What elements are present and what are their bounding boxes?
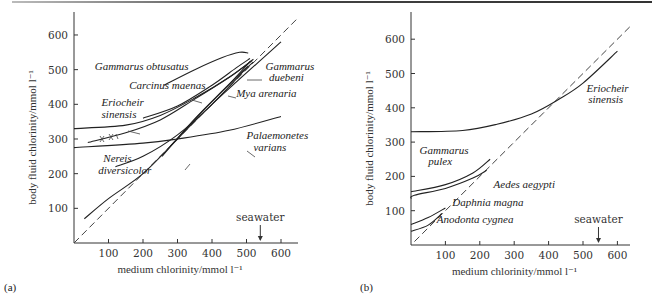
x-tick-label: 600	[271, 247, 291, 259]
species-label: pulex	[427, 155, 452, 167]
y-tick-label: 300	[385, 136, 405, 148]
x-tick-label: 100	[435, 249, 455, 261]
leader-line	[128, 131, 140, 134]
species-label: Eriocheir	[101, 96, 145, 108]
leader-line	[228, 96, 236, 98]
leader-line	[192, 100, 202, 103]
figure: 100200300400500600100200300400500600medi…	[0, 0, 652, 299]
x-tick-label: 200	[133, 247, 153, 259]
series-isosmotic-line	[414, 25, 631, 241]
y-tick-label: 400	[48, 98, 68, 110]
y-tick-label: 500	[385, 68, 405, 80]
species-label: sinensis	[588, 93, 623, 105]
y-tick-label: 500	[48, 64, 68, 76]
seawater-annotation: seawater	[574, 213, 624, 225]
leader-line	[185, 164, 190, 170]
x-tick-label: 300	[167, 247, 187, 259]
y-tick-label: 300	[48, 133, 68, 145]
panel-label: (a)	[4, 281, 17, 294]
species-label: Palaemonetes	[246, 129, 309, 141]
y-axis-label: body fluid chlorinity/mmol l⁻¹	[26, 70, 38, 205]
x-tick-label: 500	[236, 247, 256, 259]
species-label: varians	[253, 141, 286, 153]
species-label: Mya arenaria	[235, 87, 297, 99]
arrowhead-icon	[258, 236, 263, 241]
panel-a-chart: 100200300400500600100200300400500600medi…	[4, 12, 314, 294]
species-label: Aedes aegypti	[493, 178, 555, 190]
species-label: diversicolor	[98, 164, 152, 176]
x-axis-label: medium chlorinity/mmol l⁻¹	[452, 265, 577, 277]
arrowhead-icon	[596, 238, 601, 243]
y-tick-label: 200	[385, 170, 405, 182]
panel-label: (b)	[360, 281, 373, 294]
x-tick-label: 500	[573, 249, 593, 261]
y-tick-label: 400	[385, 102, 405, 114]
species-label: sinensis	[102, 108, 137, 120]
panel-b-chart: 100200300400500600100200300400500600medi…	[360, 12, 631, 294]
species-label: Nereis	[102, 152, 131, 164]
species-label: Daphnia magna	[451, 196, 524, 208]
x-tick-label: 200	[470, 249, 490, 261]
species-label: Gammarus obtusatus	[95, 60, 189, 72]
series-aedes-aegypti	[411, 170, 487, 198]
x-tick-label: 600	[607, 249, 627, 261]
species-label: duebeni	[269, 71, 304, 83]
x-axis-label: medium chlorinity/mmol l⁻¹	[117, 263, 242, 275]
species-label: Gammarus	[420, 144, 469, 156]
x-tick-label: 300	[504, 249, 524, 261]
seawater-annotation: seawater	[236, 211, 286, 223]
x-tick-label: 400	[202, 247, 222, 259]
x-tick-label: 100	[98, 247, 118, 259]
x-tick-label: 400	[539, 249, 559, 261]
y-tick-label: 100	[48, 202, 68, 214]
y-tick-label: 600	[48, 29, 68, 41]
y-tick-label: 200	[48, 168, 68, 180]
species-label: Carcinus maenas	[129, 79, 205, 91]
y-axis-label: body fluid chlorinity/mmol l⁻¹	[363, 71, 375, 206]
species-label: Anodonta cygnea	[436, 213, 514, 225]
y-tick-label: 100	[385, 205, 405, 217]
y-tick-label: 600	[385, 33, 405, 45]
